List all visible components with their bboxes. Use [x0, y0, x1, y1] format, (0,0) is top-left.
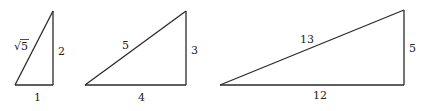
triangle-3-hypotenuse-label: 13	[300, 33, 314, 46]
triangle-1-hypotenuse-label: √5	[14, 40, 28, 53]
triangle-2-base-label: 4	[138, 91, 145, 104]
triangle-3-hypotenuse	[220, 10, 404, 85]
triangle-2-hypotenuse-label: 5	[122, 39, 129, 52]
triangle-3-height-label: 5	[409, 42, 416, 55]
triangle-1-base-label: 1	[34, 91, 41, 104]
triangle-3-base-label: 12	[313, 89, 327, 102]
triangle-2: 5 3 4	[85, 11, 198, 104]
triangle-2-height-label: 3	[191, 44, 198, 57]
triangle-1-height-label: 2	[58, 45, 65, 58]
triangle-3: 13 5 12	[220, 10, 416, 102]
triangles-diagram: √5 2 1 5 3 4 13 5 12	[0, 0, 428, 111]
triangle-2-hypotenuse	[85, 11, 186, 85]
triangle-1: √5 2 1	[14, 11, 65, 104]
